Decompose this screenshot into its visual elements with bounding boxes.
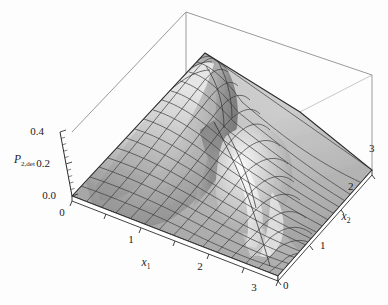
x2-tick-label-0: 0	[283, 279, 289, 291]
x2-tick-label-1: 1	[320, 239, 326, 251]
surface-plot-3d: 0 1 2 3 x1 0 1 2 3 x2	[0, 0, 388, 305]
x2-axis-title-sub: 2	[347, 216, 351, 225]
z-tick-label-0: 0.0	[42, 189, 56, 201]
figure-container: 0 1 2 3 x1 0 1 2 3 x2	[0, 0, 388, 305]
x1-tick-label-0: 0	[59, 206, 65, 218]
z-tick-label-1: 0.2	[36, 157, 50, 169]
x2-tick-label-3: 3	[369, 142, 375, 154]
x1-tick-label-3: 3	[251, 281, 257, 293]
x1-tick-label-2: 2	[197, 260, 203, 272]
z-tick-label-2: 0.4	[30, 125, 44, 137]
z-axis-title-base: P	[13, 153, 21, 165]
x2-tick-label-2: 2	[348, 180, 354, 192]
z-axis-title-sub: 2,det	[21, 160, 35, 168]
x1-axis-title-sub: 1	[147, 262, 151, 271]
x1-tick-label-1: 1	[128, 233, 134, 245]
